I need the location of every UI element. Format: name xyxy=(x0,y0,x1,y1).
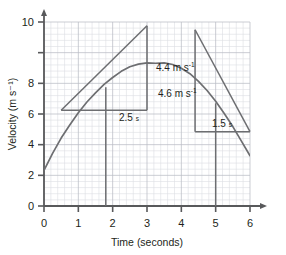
y-tick-label: 6 xyxy=(28,108,34,120)
y-tick-label: 8 xyxy=(28,77,34,89)
velocity-time-chart: 10 8 6 4 2 0 0 1 2 3 4 5 6 Time (seconds… xyxy=(0,0,286,255)
x-axis-arrow xyxy=(260,203,267,209)
x-tick-label: 5 xyxy=(213,217,219,229)
x-axis-title: Time (seconds) xyxy=(111,236,183,248)
rise-label-1-exp: -1 xyxy=(189,61,195,68)
run-label-1-unit: s xyxy=(136,115,140,122)
y-tick-label: 2 xyxy=(28,169,34,181)
triangle-1-tangent xyxy=(61,26,147,111)
x-tick-label: 6 xyxy=(247,217,253,229)
x-tick-label: 0 xyxy=(41,217,47,229)
rise-label-2-unit: m s xyxy=(175,88,191,99)
y-axis-arrow xyxy=(41,9,47,16)
y-axis-title: Velocity (m s⁻¹) xyxy=(6,78,18,151)
run-label-2-value: 1.5 xyxy=(212,118,226,129)
rise-label-1-unit: m s xyxy=(173,62,189,73)
y-tick-label: 4 xyxy=(28,138,34,150)
rise-label-1-value: 4.4 xyxy=(156,62,170,73)
gradient-triangle-1 xyxy=(61,26,147,111)
y-tick-labels: 10 8 6 4 2 0 xyxy=(22,16,34,212)
x-tick-label: 3 xyxy=(144,217,150,229)
x-tick-label: 4 xyxy=(178,217,184,229)
rise-label-2-value: 4.6 xyxy=(158,88,172,99)
y-tick-label: 10 xyxy=(22,16,34,28)
rise-label-2: 4.6 m s-1 xyxy=(158,87,197,99)
x-tick-labels: 0 1 2 3 4 5 6 xyxy=(41,217,253,229)
x-tick-label: 1 xyxy=(75,217,81,229)
rise-label-2-exp: -1 xyxy=(191,87,197,94)
chart-canvas: 10 8 6 4 2 0 0 1 2 3 4 5 6 Time (seconds… xyxy=(0,0,286,255)
y-tick-label: 0 xyxy=(28,200,34,212)
x-tick-label: 2 xyxy=(110,217,116,229)
run-label-1-value: 2.5 xyxy=(119,112,133,123)
